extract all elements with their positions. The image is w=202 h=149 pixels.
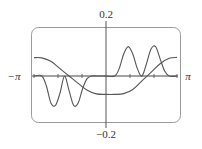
- y-max-label: 0.2: [99, 8, 113, 20]
- x-min-label: −π: [8, 70, 21, 82]
- y-min-label: −0.2: [96, 128, 116, 140]
- function-plot: 0.2 −0.2 −π π: [0, 0, 202, 149]
- x-max-label: π: [185, 70, 191, 82]
